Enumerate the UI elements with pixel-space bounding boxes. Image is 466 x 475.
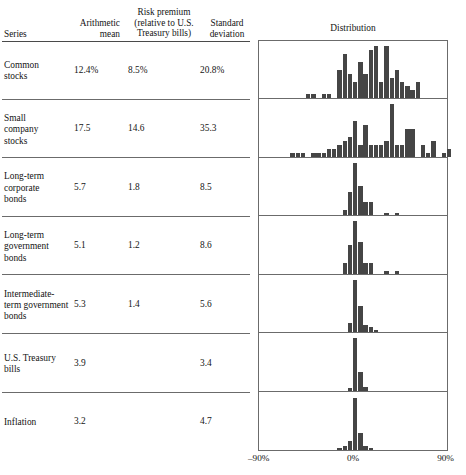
histogram-bar (343, 446, 347, 450)
histogram-bar (426, 153, 430, 157)
histogram-plot-area (259, 275, 447, 332)
column-header-risk-premium-line3: Treasury bills) (124, 28, 204, 39)
row-series-name: Smallcompanystocks (4, 113, 74, 147)
table-row: U.S. Treasurybills3.93.4 (0, 334, 252, 393)
table-row: Smallcompanystocks17.514.635.3 (0, 100, 252, 159)
table-header: Series Arithmetic mean Risk premium (rel… (0, 0, 252, 42)
histogram-bar (348, 245, 352, 274)
histogram-bar (410, 129, 414, 157)
histogram-bar (348, 323, 352, 333)
row-series-name: Commonstocks (4, 60, 74, 83)
histogram-bar (348, 388, 352, 390)
row-risk-premium: 14.6 (128, 123, 172, 134)
histogram-bar (374, 145, 378, 157)
histogram-bar (337, 145, 341, 157)
row-arithmetic-mean: 5.1 (74, 240, 118, 251)
histogram-bar (358, 145, 362, 157)
histogram-bar (332, 149, 336, 157)
histogram-bar (353, 82, 357, 98)
histogram-bar (442, 153, 446, 157)
histogram-bar (384, 271, 388, 274)
histogram-bar (384, 141, 388, 157)
histogram-bar (353, 280, 357, 332)
histogram-bar (363, 74, 367, 98)
histogram-bar (369, 448, 373, 450)
row-standard-deviation: 5.6 (200, 299, 244, 310)
row-series-name-line: Common (4, 60, 74, 71)
column-header-series: Series (4, 29, 27, 40)
histogram-bar (363, 263, 367, 273)
row-series-name-line: bonds (4, 253, 74, 264)
row-standard-deviation: 3.4 (200, 358, 244, 369)
distribution-title: Distribution (258, 23, 448, 33)
row-standard-deviation: 8.5 (200, 182, 244, 193)
histogram-panel (259, 275, 447, 333)
histogram-bar (327, 149, 331, 157)
histogram-bar (358, 62, 362, 98)
row-risk-premium: 1.4 (128, 299, 172, 310)
histogram-bar (400, 82, 404, 98)
series-statistics-table: Series Arithmetic mean Risk premium (rel… (0, 0, 252, 475)
histogram-bar (343, 263, 347, 273)
histogram-bar (379, 145, 383, 157)
histogram-bar (353, 221, 357, 273)
histogram-bar (374, 46, 378, 98)
histogram-bar (384, 213, 388, 216)
row-arithmetic-mean: 17.5 (74, 123, 118, 134)
histogram-bar (301, 153, 305, 157)
row-series-name-line: bonds (4, 194, 74, 205)
histogram-bar (337, 70, 341, 98)
row-risk-premium: 1.2 (128, 240, 172, 251)
histogram-bar (363, 387, 367, 391)
row-series-name: Long-termcorporatebonds (4, 171, 74, 205)
column-header-standard-deviation-line1: Standard (204, 18, 250, 29)
row-series-name-line: stocks (4, 136, 74, 147)
table-row: Long-termgovernmentbonds5.11.28.6 (0, 217, 252, 276)
histogram-bar (379, 82, 383, 98)
row-risk-premium: 8.5% (128, 65, 172, 76)
histogram-bar (353, 121, 357, 157)
histogram-panel (259, 99, 447, 157)
row-series-name-line: bonds (4, 311, 90, 322)
column-header-arithmetic-mean-line1: Arithmetic (72, 18, 120, 29)
row-series-name-line: Long-term (4, 171, 74, 182)
row-series-name-line: Long-term (4, 230, 74, 241)
histogram-bar (358, 242, 362, 273)
x-axis-labels: –90% 0% 90% (258, 453, 448, 467)
histogram-bar (395, 213, 399, 216)
histogram-bar (374, 330, 378, 332)
histogram-plot-area (259, 333, 447, 390)
histogram-bar (405, 86, 409, 98)
row-series-name-line: government (4, 241, 74, 252)
row-series-name-line: stocks (4, 71, 74, 82)
histogram-panel (259, 41, 447, 99)
x-axis-label-zero: 0% (347, 453, 359, 463)
histogram-bar (363, 125, 367, 157)
histogram-bar (327, 94, 331, 98)
histogram-bar (311, 94, 315, 98)
histogram-bar (343, 54, 347, 98)
histogram-bar (353, 338, 357, 390)
histogram-bar (343, 210, 347, 215)
histogram-bar (395, 271, 399, 274)
histogram-bar (390, 104, 394, 156)
column-header-standard-deviation: Standard deviation (204, 18, 250, 39)
histogram-bar (369, 50, 373, 98)
histogram-bar (348, 137, 352, 157)
histogram-bar (369, 263, 373, 273)
histogram-bar (316, 153, 320, 157)
histogram-bar (358, 433, 362, 450)
row-series-name-line: company (4, 124, 74, 135)
x-axis-label-max: 90% (437, 453, 454, 463)
histogram-bar (343, 141, 347, 157)
histogram-bar (358, 186, 362, 215)
histogram-bar (447, 149, 451, 157)
histogram-bar (384, 46, 388, 98)
histogram-bar (363, 446, 367, 450)
histogram-plot-area (259, 216, 447, 273)
histogram-bar (363, 202, 367, 215)
histogram-bar (369, 327, 373, 332)
table-row: Inflation3.24.7 (0, 393, 252, 452)
row-standard-deviation: 35.3 (200, 123, 244, 134)
histogram-bar (395, 70, 399, 98)
